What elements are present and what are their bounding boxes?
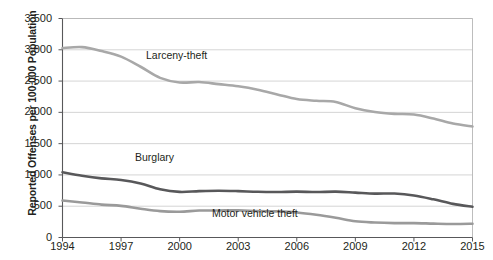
x-tick-label: 2000	[150, 240, 210, 252]
line-chart: Reported Offenses per 100,000 Population…	[0, 0, 493, 260]
x-tick-label: 2015	[443, 240, 493, 252]
x-tick-label: 2006	[267, 240, 327, 252]
x-tick-label: 2012	[384, 240, 444, 252]
series-label-1: Burglary	[135, 152, 174, 163]
series-label-2: Motor vehicle theft	[212, 208, 298, 219]
x-tick-label: 1997	[91, 240, 151, 252]
x-tick-label: 1994	[33, 240, 93, 252]
series-label-0: Larceny-theft	[146, 50, 207, 61]
x-tick-label: 2009	[325, 240, 385, 252]
x-tick-label: 2003	[208, 240, 268, 252]
x-tick-labels: 19941997200020032006200920122015	[0, 0, 493, 260]
